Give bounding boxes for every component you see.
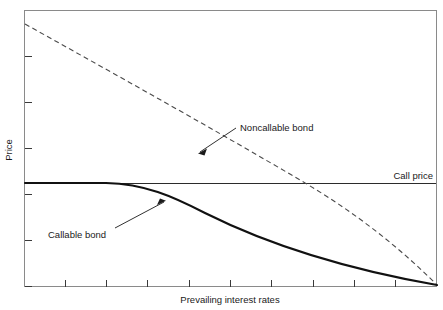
y-axis-ticks [25,57,32,287]
chart-container: Noncallable bond Callable bond Call pric… [0,0,443,310]
call-price-annotation-label: Call price [393,170,433,181]
series-noncallable-bond [25,24,437,285]
x-axis-ticks [66,280,396,287]
noncallable-annotation: Noncallable bond [198,122,313,156]
bond-price-chart: Noncallable bond Callable bond Call pric… [0,0,443,310]
callable-annotation-label: Callable bond [48,229,106,240]
callable-leader-line [115,202,164,228]
callable-arrow-head [157,199,166,206]
x-axis-title: Prevailing interest rates [180,294,280,305]
callable-annotation: Callable bond [48,199,166,241]
y-axis-title: Price [3,139,14,161]
plot-frame [25,11,437,287]
noncallable-arrow-head [198,149,207,156]
noncallable-annotation-label: Noncallable bond [240,122,313,133]
